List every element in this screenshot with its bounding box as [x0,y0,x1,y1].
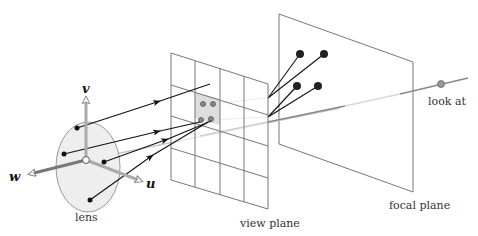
view-plane-label: view plane [239,217,300,230]
focal-plane-label: focal plane [389,199,450,212]
v-axis-label: v [82,81,90,96]
lens-center [83,157,90,164]
w-axis-label: w [9,169,21,184]
look-at-label: look at [428,95,466,108]
lens-label: lens [75,211,98,224]
view-plane [171,53,268,209]
focal-plane [279,14,413,192]
thin-lens-diagram: v w u lens view plane focal plane look a… [0,0,478,236]
look-at-point [438,81,445,88]
u-axis-label: u [146,176,155,191]
